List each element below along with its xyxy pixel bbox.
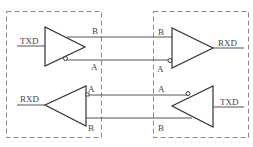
label-txd-right: TXD — [220, 97, 239, 107]
top-driver-invert-bubble — [64, 57, 68, 61]
label-rxd-right: RXD — [218, 38, 238, 48]
label-txd-left: TXD — [20, 36, 39, 46]
label-b-left-bottom: B — [88, 123, 94, 133]
bottom-driver-invert-bubble — [186, 92, 190, 96]
label-a-right-bottom: A — [158, 84, 165, 94]
label-b-right-bottom: B — [158, 123, 164, 133]
rs485-diagram: TXD B A B A RXD RXD A B A B TXD — [0, 0, 253, 147]
label-b-right-top: B — [158, 27, 164, 37]
bottom-receiver-triangle — [45, 86, 86, 126]
label-b-left-top: B — [92, 26, 98, 36]
label-a-right-top: A — [157, 64, 164, 74]
label-a-left-bottom: A — [88, 84, 95, 94]
top-receiver-triangle — [172, 28, 213, 68]
left-node-box — [7, 12, 102, 138]
top-receiver-invert-bubble — [168, 59, 172, 63]
right-node-box — [154, 12, 249, 138]
label-rxd-left: RXD — [20, 94, 40, 104]
bottom-driver-triangle — [172, 86, 213, 127]
label-a-left-top: A — [91, 62, 98, 72]
